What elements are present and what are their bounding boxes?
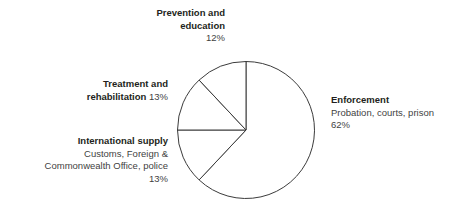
- label-prevention-title-line1: Prevention and: [156, 7, 225, 20]
- label-prevention-title-line2: education: [156, 20, 225, 33]
- label-treatment-title-line2: rehabilitation: [87, 91, 147, 102]
- label-enforcement-percent: 62%: [331, 119, 434, 132]
- label-treatment-percent: 13%: [149, 91, 168, 102]
- label-international-line2: Commonwealth Office, police: [45, 160, 168, 173]
- label-international-line1: Customs, Foreign &: [45, 148, 168, 161]
- label-enforcement-line1: Probation, courts, prison: [331, 107, 434, 120]
- pie-chart-figure: Prevention and education 12% Treatment a…: [0, 0, 465, 211]
- label-international-title: International supply: [45, 135, 168, 148]
- label-international-supply: International supply Customs, Foreign & …: [45, 135, 168, 185]
- pie-slices: [178, 62, 315, 199]
- label-enforcement-title: Enforcement: [331, 94, 434, 107]
- pie-chart-graphic: [177, 61, 315, 199]
- label-treatment-title-line1: Treatment and: [87, 78, 168, 91]
- pie-svg: [177, 61, 315, 199]
- label-prevention-education: Prevention and education 12%: [156, 7, 225, 45]
- label-international-percent: 13%: [45, 173, 168, 186]
- label-enforcement: Enforcement Probation, courts, prison 62…: [331, 94, 434, 132]
- label-treatment-line2: rehabilitation 13%: [87, 91, 168, 104]
- label-treatment-rehabilitation: Treatment and rehabilitation 13%: [87, 78, 168, 103]
- label-prevention-percent: 12%: [156, 32, 225, 45]
